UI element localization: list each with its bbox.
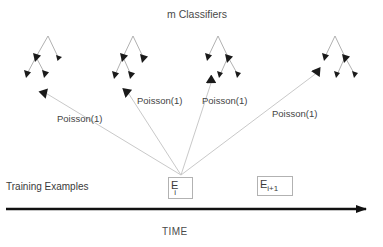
- page-title: m Classifiers: [167, 8, 227, 20]
- event-box-ei-subscript: i: [174, 188, 176, 197]
- training-examples-label: Training Examples: [6, 181, 88, 192]
- edge-label-poisson-1: Poisson(1): [57, 113, 102, 124]
- connector-ray-4: [181, 72, 318, 175]
- event-box-ei1-subscript: i+1: [267, 184, 278, 193]
- tree-3-nodes: [205, 53, 241, 78]
- edge-label-poisson-2: Poisson(1): [137, 95, 182, 106]
- edge-label-poisson-3: Poisson(1): [202, 95, 247, 106]
- diagram-canvas: m Classifiers Poisson(1) Poisson(1) Pois…: [0, 0, 383, 247]
- classifier-tree-3: [205, 36, 241, 78]
- time-axis-label: TIME: [162, 226, 188, 237]
- event-box-ei-label: Ei: [171, 179, 180, 191]
- event-box-ei1-label: Ei+1: [260, 178, 278, 190]
- classifier-tree-2: [112, 36, 148, 79]
- tree-4-nodes: [322, 53, 358, 78]
- edge-label-poisson-4: Poisson(1): [272, 108, 317, 119]
- tree-2-nodes: [112, 53, 148, 79]
- tree-1-nodes: [24, 53, 62, 78]
- classifier-tree-1: [24, 36, 62, 78]
- classifier-tree-4: [322, 36, 358, 78]
